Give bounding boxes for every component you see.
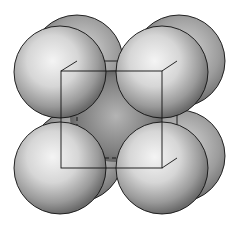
- front-top-left-sphere: [14, 26, 106, 118]
- bcc-unit-cell-diagram: [0, 0, 236, 225]
